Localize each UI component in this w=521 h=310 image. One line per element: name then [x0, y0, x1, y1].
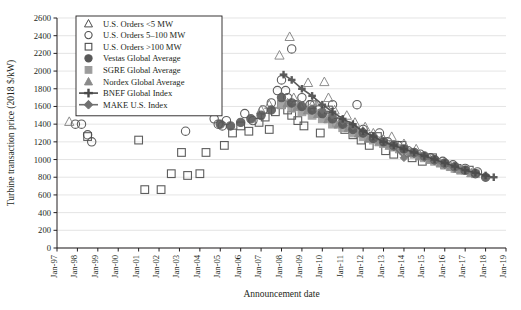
x-tick-label: Jan-04 [192, 254, 202, 278]
x-tick-label: Jan-14 [396, 254, 406, 278]
y-tick-label: 2200 [34, 48, 51, 58]
y-tick-label: 2400 [34, 31, 51, 41]
x-tick-label: Jan-03 [171, 255, 181, 278]
x-tick-label: Jan-16 [437, 254, 447, 278]
y-tick-label: 1200 [34, 137, 51, 147]
legend-label: U.S. Orders 5–100 MW [103, 30, 186, 40]
legend-label: U.S. Orders <5 MW [103, 19, 174, 29]
y-tick-label: 1400 [34, 119, 51, 129]
y-tick-label: 1000 [34, 155, 51, 165]
x-axis-ticks: Jan-97Jan-98Jan-99Jan-00Jan-01Jan-02Jan-… [49, 248, 508, 278]
x-tick-label: Jan-05 [212, 255, 222, 278]
legend-label: Vestas Global Average [103, 53, 181, 63]
y-tick-label: 400 [38, 208, 51, 218]
legend-label: MAKE U.S. Index [103, 100, 168, 110]
legend-label: SGRE Global Average [103, 65, 181, 75]
y-tick-label: 1600 [34, 101, 51, 111]
x-tick-label: Jan-07 [253, 254, 263, 278]
legend-label: BNEF Global Index [103, 88, 173, 98]
legend-marker-circle-filled [85, 55, 92, 62]
x-tick-label: Jan-08 [274, 255, 284, 278]
x-tick-label: Jan-02 [151, 255, 161, 278]
y-tick-label: 800 [38, 172, 51, 182]
x-tick-label: Jan-10 [314, 255, 324, 278]
x-tick-label: Jan-17 [457, 254, 467, 278]
x-tick-label: Jan-98 [69, 255, 79, 278]
x-tick-label: Jan-19 [498, 255, 508, 278]
x-tick-label: Jan-09 [294, 255, 304, 278]
x-tick-label: Jan-99 [90, 255, 100, 278]
y-tick-label: 1800 [34, 84, 51, 94]
x-tick-label: Jan-06 [233, 254, 243, 278]
x-axis-title: Announcement date [243, 289, 319, 299]
y-tick-label: 600 [38, 190, 51, 200]
legend-label: U.S. Orders >100 MW [103, 42, 182, 52]
x-tick-label: Jan-00 [110, 255, 120, 278]
y-tick-label: 200 [38, 225, 51, 235]
x-tick-label: Jan-15 [416, 255, 426, 278]
y-axis-title: Turbine transaction price (2018 $/kW) [6, 60, 17, 206]
x-tick-label: Jan-18 [478, 255, 488, 278]
x-tick-label: Jan-12 [355, 255, 365, 278]
y-tick-label: 2000 [34, 66, 51, 76]
legend-marker-square-filled [85, 67, 92, 74]
x-tick-label: Jan-01 [131, 255, 141, 278]
y-tick-label: 2600 [34, 13, 51, 23]
x-tick-label: Jan-11 [335, 255, 345, 278]
legend-label: Nordex Global Average [103, 77, 185, 87]
y-tick-label: 0 [47, 243, 51, 253]
y-axis-ticks: 0200400600800100012001400160018002000220… [34, 13, 57, 253]
x-tick-label: Jan-97 [49, 254, 59, 278]
chart-legend: U.S. Orders <5 MWU.S. Orders 5–100 MWU.S… [76, 16, 222, 116]
turbine-price-scatter-chart: 0200400600800100012001400160018002000220… [0, 0, 521, 310]
x-tick-label: Jan-13 [376, 255, 386, 278]
chart-figure: 0200400600800100012001400160018002000220… [0, 0, 521, 310]
